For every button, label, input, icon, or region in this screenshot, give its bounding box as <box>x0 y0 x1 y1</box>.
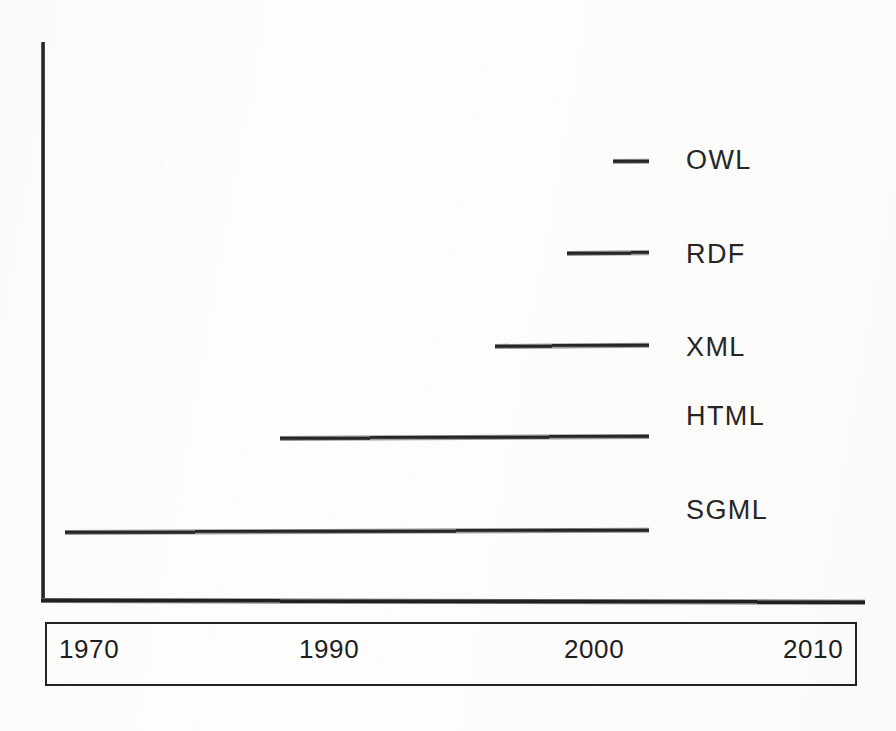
timeline-bar-owl <box>613 159 649 164</box>
x-axis-line <box>41 598 865 605</box>
y-axis-line <box>41 42 45 602</box>
timeline-bar-sgml <box>65 528 649 535</box>
timeline-bar-html <box>280 434 649 441</box>
year-axis-box: 1970 1990 2000 2010 <box>45 622 857 686</box>
timeline-bar-rdf <box>567 250 649 256</box>
series-label-rdf: RDF <box>686 241 746 268</box>
year-tick-2010: 2010 <box>783 636 843 662</box>
series-label-html: HTML <box>686 403 765 430</box>
series-label-xml: XML <box>686 334 746 361</box>
series-label-owl: OWL <box>686 147 752 174</box>
timeline-bar-xml <box>495 343 649 349</box>
year-tick-1990: 1990 <box>299 636 359 662</box>
series-label-sgml: SGML <box>686 497 768 524</box>
year-tick-2000: 2000 <box>564 636 624 662</box>
figure-canvas: OWL RDF XML HTML SGML 1970 1990 2000 201… <box>0 0 896 731</box>
year-tick-1970: 1970 <box>59 636 119 662</box>
